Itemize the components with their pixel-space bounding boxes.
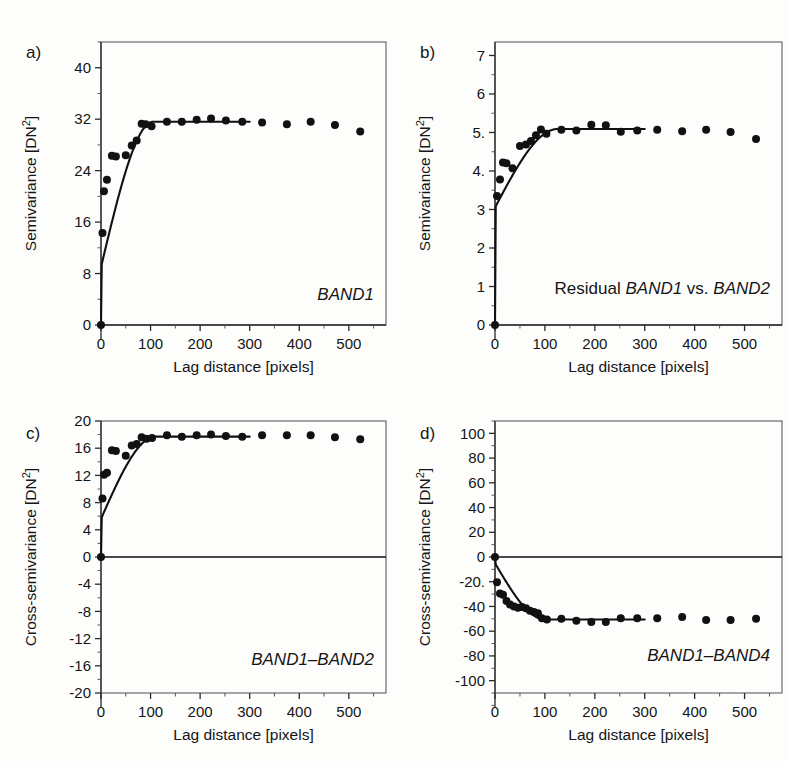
y-tick-label: 16	[74, 213, 91, 230]
y-axis-title: Semivariance [DN2]	[20, 116, 39, 251]
y-tick-label: 4	[83, 521, 91, 538]
series-label: BAND1–BAND2	[251, 650, 374, 669]
data-point	[331, 121, 339, 129]
data-point	[542, 130, 550, 138]
data-point	[178, 433, 186, 441]
y-tick-label: 16	[74, 439, 91, 456]
data-point	[148, 434, 156, 442]
panel-letter: d)	[420, 424, 435, 443]
x-tick-label: 200	[582, 703, 607, 720]
panel-letter: a)	[26, 43, 41, 62]
y-tick-label: 8	[83, 494, 91, 511]
x-tick-label: 0	[97, 703, 105, 720]
data-point	[103, 469, 111, 477]
data-point	[103, 176, 111, 184]
data-point	[727, 128, 735, 136]
data-point	[587, 121, 595, 129]
y-tick-label: 0	[83, 548, 91, 565]
x-axis-title: Lag distance [pixels]	[173, 726, 313, 743]
data-point	[97, 553, 105, 561]
y-tick-label: 40	[74, 59, 91, 76]
data-point	[587, 618, 595, 626]
panel-letter: c)	[26, 424, 40, 443]
y-tick-label: 20	[468, 523, 485, 540]
x-tick-label: 500	[732, 335, 757, 352]
data-point	[222, 116, 230, 124]
y-tick-label: -40	[463, 598, 485, 615]
data-point	[98, 495, 106, 503]
data-point	[283, 431, 291, 439]
series-label: Residual BAND1 vs. BAND2	[555, 279, 771, 298]
panel-d: -100-80-60-40-20.02040608010001002003004…	[394, 381, 789, 762]
x-tick-label: 400	[682, 335, 707, 352]
y-tick-label: 5.	[472, 124, 485, 141]
y-tick-label: 80	[468, 449, 485, 466]
y-tick-label: 1	[477, 278, 485, 295]
x-tick-label: 200	[188, 703, 213, 720]
data-point	[653, 126, 661, 134]
y-tick-label: -80	[463, 647, 485, 664]
data-point	[617, 614, 625, 622]
y-axis-title: Semivariance [DN2]	[414, 116, 433, 251]
data-point	[602, 618, 610, 626]
y-tick-label: 60	[468, 474, 485, 491]
data-point	[307, 118, 315, 126]
data-point	[238, 118, 246, 126]
x-tick-label: 0	[491, 703, 499, 720]
data-point	[572, 617, 580, 625]
data-point	[356, 127, 364, 135]
y-tick-label: -20.	[459, 573, 485, 590]
data-point	[727, 616, 735, 624]
x-tick-label: 300	[237, 703, 262, 720]
x-tick-label: 200	[582, 335, 607, 352]
data-point	[148, 122, 156, 130]
panel-b: 01234.5.670100200300400500b)Lag distance…	[394, 0, 789, 381]
x-tick-label: 100	[138, 703, 163, 720]
y-tick-label: 2	[477, 239, 485, 256]
data-point-group	[491, 553, 760, 626]
data-point	[307, 431, 315, 439]
data-point	[178, 118, 186, 126]
data-point	[491, 553, 499, 561]
x-tick-label: 500	[336, 335, 361, 352]
data-point	[122, 151, 130, 159]
y-tick-label: 32	[74, 110, 91, 127]
data-point	[678, 613, 686, 621]
panel-c: -20-16-12-8-40481216200100200300400500c)…	[0, 381, 394, 762]
y-tick-label: 0	[477, 548, 485, 565]
panel-c-plot: -20-16-12-8-40481216200100200300400500c)…	[0, 381, 394, 762]
data-point	[331, 433, 339, 441]
data-point	[752, 615, 760, 623]
data-point	[258, 118, 266, 126]
x-tick-label: 100	[138, 335, 163, 352]
data-point	[617, 128, 625, 136]
data-point	[283, 120, 291, 128]
data-point	[491, 321, 499, 329]
x-tick-label: 300	[632, 703, 657, 720]
series-label: BAND1	[317, 285, 374, 304]
data-point	[98, 229, 106, 237]
data-point	[222, 432, 230, 440]
y-tick-label: 24	[74, 162, 91, 179]
x-tick-label: 100	[532, 703, 557, 720]
y-tick-label: 3	[477, 201, 485, 218]
y-tick-label: 7	[477, 47, 485, 64]
data-point	[633, 614, 641, 622]
y-tick-label: 8	[83, 265, 91, 282]
data-point	[133, 440, 141, 448]
x-tick-label: 200	[188, 335, 213, 352]
data-point	[508, 164, 516, 172]
data-point	[557, 126, 565, 134]
data-point	[702, 616, 710, 624]
y-axis-title: Cross-semivariance [DN2]	[414, 468, 433, 646]
data-point	[97, 321, 105, 329]
data-point	[702, 126, 710, 134]
y-tick-label: -20	[69, 684, 91, 701]
panel-a-plot: 08162432400100200300400500a)Lag distance…	[0, 0, 394, 381]
x-axis-title: Lag distance [pixels]	[568, 726, 708, 743]
x-tick-label: 500	[336, 703, 361, 720]
data-point	[163, 118, 171, 126]
y-tick-label: 40	[468, 499, 485, 516]
panel-d-plot: -100-80-60-40-20.02040608010001002003004…	[394, 381, 789, 762]
data-point	[207, 115, 215, 123]
